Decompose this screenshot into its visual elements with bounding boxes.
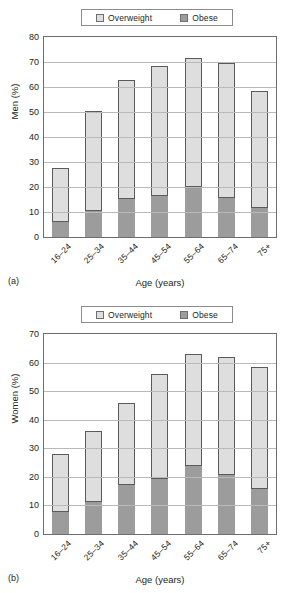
- gridline: [44, 363, 276, 364]
- y-axis-ticks-a: 01020304050607080: [5, 36, 39, 238]
- x-tick-label: 55–64: [182, 538, 206, 562]
- figure-panel-b: Overweight Obese Women (%) 0102030405060…: [0, 297, 288, 593]
- y-tick-label: 70: [9, 58, 39, 67]
- gridline: [44, 448, 276, 449]
- bar-segment-obese: [218, 474, 235, 534]
- plot-area-b: [43, 333, 277, 535]
- stacked-bar: [52, 454, 69, 534]
- plot-area-a: [43, 36, 277, 238]
- x-tick-label: 45–54: [149, 241, 173, 265]
- x-tick-label: 45–54: [149, 538, 173, 562]
- panel-caption-b: (b): [8, 573, 19, 583]
- plot-wrapper-b: Women (%) 010203040506070 16–2425–3435–4…: [0, 297, 288, 593]
- x-tick-label: 35–44: [115, 538, 139, 562]
- y-tick-label: 50: [9, 108, 39, 117]
- gridline: [44, 505, 276, 506]
- stacked-bar: [218, 63, 235, 237]
- y-tick-label: 0: [9, 233, 39, 242]
- x-tick-label: 35–44: [115, 241, 139, 265]
- stacked-bar: [85, 431, 102, 534]
- bar-group-b: [44, 334, 276, 534]
- stacked-bar: [185, 354, 202, 534]
- y-tick-label: 20: [9, 183, 39, 192]
- y-tick-label: 50: [9, 387, 39, 396]
- y-axis-ticks-b: 010203040506070: [5, 333, 39, 535]
- y-tick-label: 60: [9, 358, 39, 367]
- bar-segment-obese: [251, 488, 268, 534]
- figure-panel-a: Overweight Obese Men (%) 010203040506070…: [0, 0, 288, 296]
- y-tick-label: 10: [9, 501, 39, 510]
- stacked-bar: [118, 80, 135, 238]
- x-axis-ticks-a: 16–2425–3435–4445–5455–6465–7475+: [43, 239, 277, 277]
- y-tick-label: 20: [9, 472, 39, 481]
- gridline: [44, 420, 276, 421]
- bar-segment-obese: [85, 210, 102, 238]
- x-tick-label: 25–34: [82, 538, 106, 562]
- x-tick-label: 16–24: [48, 538, 72, 562]
- gridline: [44, 62, 276, 63]
- stacked-bar: [151, 374, 168, 534]
- bar-slot: [243, 334, 276, 534]
- stacked-bar: [185, 58, 202, 237]
- gridline: [44, 391, 276, 392]
- y-tick-label: 10: [9, 208, 39, 217]
- y-tick-label: 30: [9, 158, 39, 167]
- bar-segment-obese: [218, 197, 235, 237]
- bar-segment-obese: [185, 465, 202, 534]
- gridline: [44, 477, 276, 478]
- y-tick-label: 40: [9, 133, 39, 142]
- bar-segment-obese: [151, 195, 168, 238]
- y-tick-label: 70: [9, 330, 39, 339]
- x-tick-label: 16–24: [48, 241, 72, 265]
- x-tick-label: 75+: [256, 241, 274, 259]
- stacked-bar: [118, 403, 135, 534]
- gridline: [44, 162, 276, 163]
- gridline: [44, 187, 276, 188]
- y-tick-label: 0: [9, 530, 39, 539]
- bar-segment-obese: [118, 198, 135, 237]
- stacked-bar: [218, 357, 235, 534]
- panel-caption-a: (a): [8, 276, 19, 286]
- bar-segment-obese: [118, 484, 135, 534]
- bar-slot: [177, 334, 210, 534]
- gridline: [44, 137, 276, 138]
- x-axis-title-a: Age (years): [43, 277, 277, 288]
- x-tick-label: 65–74: [215, 241, 239, 265]
- bar-slot: [210, 334, 243, 534]
- x-tick-label: 25–34: [82, 241, 106, 265]
- bar-segment-obese: [52, 221, 69, 237]
- x-tick-label: 65–74: [215, 538, 239, 562]
- y-tick-label: 60: [9, 83, 39, 92]
- gridline: [44, 112, 276, 113]
- y-tick-label: 80: [9, 33, 39, 42]
- x-tick-label: 75+: [256, 538, 274, 556]
- bar-slot: [143, 334, 176, 534]
- y-tick-label: 30: [9, 444, 39, 453]
- x-axis-title-b: Age (years): [43, 574, 277, 585]
- x-tick-label: 55–64: [182, 241, 206, 265]
- gridline: [44, 212, 276, 213]
- y-tick-label: 40: [9, 415, 39, 424]
- stacked-bar: [85, 111, 102, 237]
- plot-wrapper-a: Men (%) 01020304050607080 16–2425–3435–4…: [0, 0, 288, 296]
- bar-slot: [44, 334, 77, 534]
- x-axis-ticks-b: 16–2425–3435–4445–5455–6465–7475+: [43, 536, 277, 574]
- gridline: [44, 87, 276, 88]
- bar-slot: [110, 334, 143, 534]
- bar-slot: [77, 334, 110, 534]
- stacked-bar: [52, 168, 69, 237]
- bar-segment-obese: [52, 511, 69, 534]
